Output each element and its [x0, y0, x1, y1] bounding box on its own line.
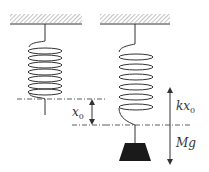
mg-label: Mg [175, 136, 196, 150]
left-spring [28, 24, 62, 115]
right-ceiling [100, 14, 170, 24]
spring-diagram: x0 kx0 Mg [0, 0, 209, 172]
hanging-mass [119, 143, 151, 161]
kx0-label: kx0 [176, 99, 195, 115]
left-ceiling [10, 14, 82, 24]
x0-label: x0 [72, 105, 84, 121]
